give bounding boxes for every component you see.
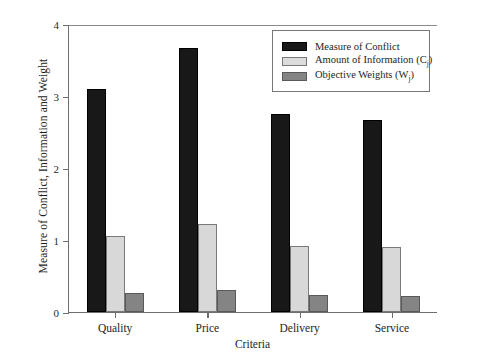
bar [198, 224, 217, 312]
y-axis-tick [63, 241, 69, 242]
bar [401, 296, 420, 312]
legend-swatch [282, 42, 307, 51]
bar [382, 247, 401, 312]
y-axis-tick-label: 2 [54, 163, 60, 175]
x-axis-tick [115, 312, 116, 318]
y-axis-tick-label: 0 [54, 307, 60, 319]
bar [363, 120, 382, 312]
y-axis-tick-label: 4 [54, 19, 60, 31]
legend-swatch [282, 57, 307, 66]
y-axis-tick [63, 169, 69, 170]
bar [179, 48, 198, 312]
legend-item: Measure of Conflict [282, 39, 421, 53]
bar [309, 295, 328, 312]
y-axis-tick-label: 1 [54, 235, 60, 247]
legend-swatch [282, 72, 307, 81]
bar [271, 114, 290, 312]
bar [106, 236, 125, 312]
legend-item: Amount of Information (Cj) [282, 54, 421, 68]
bar [290, 246, 309, 312]
bar [87, 89, 106, 312]
x-axis-tick-label: Service [375, 322, 409, 334]
x-axis-title: Criteria [68, 338, 437, 350]
legend-label: Objective Weights (Wj) [315, 69, 414, 83]
legend-label: Measure of Conflict [315, 41, 400, 52]
bar [125, 293, 144, 312]
y-axis-tick [63, 97, 69, 98]
x-axis-tick [392, 312, 393, 318]
y-axis-tick-label: 3 [54, 91, 60, 103]
chart-figure: Measure of Conflict, Information and Wei… [0, 0, 479, 364]
y-axis-tick [63, 313, 69, 314]
y-axis-title: Measure of Conflict, Information and Wei… [37, 31, 49, 301]
bar [217, 290, 236, 312]
x-axis-tick [207, 312, 208, 318]
x-axis-tick-label: Price [196, 322, 220, 334]
x-axis-tick [300, 312, 301, 318]
x-axis-tick-label: Delivery [280, 322, 320, 334]
chart-legend: Measure of ConflictAmount of Information… [272, 30, 430, 92]
legend-item: Objective Weights (Wj) [282, 69, 421, 83]
legend-label: Amount of Information (Cj) [315, 54, 432, 68]
x-axis-tick-label: Quality [98, 322, 133, 334]
y-axis-tick [63, 25, 69, 26]
